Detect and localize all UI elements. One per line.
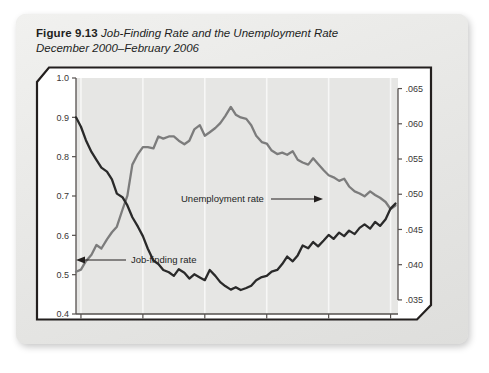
plot-wrapper: 1.00.90.80.70.60.50.4.065.060.055.050.04… xyxy=(35,66,445,321)
right-axis-tick-label-5: .040 xyxy=(406,260,424,270)
left-axis-tick-label-5: 0.5 xyxy=(56,270,69,280)
unemployment-rate-annotation-label: Unemployment rate xyxy=(181,193,264,204)
figure-title-line1: Job-Finding Rate and the Unemployment Ra… xyxy=(101,27,338,39)
right-axis-tick-label-6: .035 xyxy=(406,295,424,305)
left-axis-tick-label-3: 0.7 xyxy=(56,191,69,201)
right-axis-tick-label-0: .065 xyxy=(406,84,424,94)
right-axis-tick-label-2: .055 xyxy=(406,154,424,164)
right-axis-tick-label-1: .060 xyxy=(406,119,424,129)
left-axis-tick-label-1: 0.9 xyxy=(56,113,69,123)
left-axis-tick-label-4: 0.6 xyxy=(56,231,69,241)
right-axis-tick-label-3: .050 xyxy=(406,189,424,199)
chart-frame-box: 1.00.90.80.70.60.50.4.065.060.055.050.04… xyxy=(35,66,445,321)
left-axis-tick-label-6: 0.4 xyxy=(56,309,69,319)
figure-page: Figure 9.13 Job-Finding Rate and the Une… xyxy=(0,0,489,373)
figure-title-line2: December 2000–February 2006 xyxy=(36,42,199,54)
figure-caption: Figure 9.13 Job-Finding Rate and the Une… xyxy=(36,26,436,56)
job-finding-rate-annotation-label: Job-finding rate xyxy=(131,254,196,265)
left-axis-tick-label-2: 0.8 xyxy=(56,152,69,162)
left-axis-tick-label-0: 1.0 xyxy=(56,73,69,83)
chart-plot: 1.00.90.80.70.60.50.4.065.060.055.050.04… xyxy=(35,66,445,321)
right-axis-tick-label-4: .045 xyxy=(406,225,424,235)
figure-number: Figure 9.13 xyxy=(36,27,98,39)
